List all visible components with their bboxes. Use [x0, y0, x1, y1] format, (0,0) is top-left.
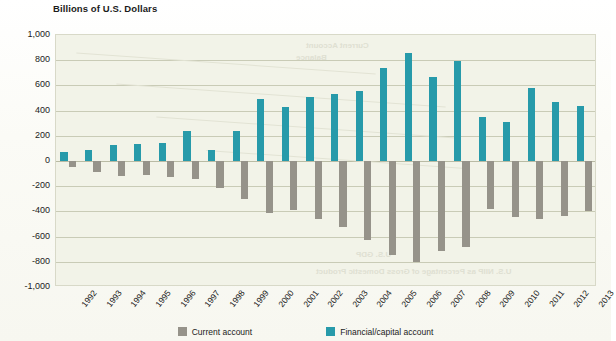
bar-group: [548, 35, 573, 285]
bar-group: [499, 35, 524, 285]
x-tick-label: 2008: [473, 288, 493, 309]
x-tick-label: 2010: [522, 288, 542, 309]
x-tick-label: 1995: [153, 288, 173, 309]
x-tick-label: 2011: [547, 288, 566, 309]
legend-label: Current account: [192, 327, 252, 337]
bar-financial-capital-account: [208, 150, 215, 161]
bar-financial-capital-account: [60, 152, 67, 161]
y-tick-label: -400: [2, 205, 50, 215]
x-tick-label: 2001: [301, 288, 321, 309]
bar-group: [204, 35, 229, 285]
bar-group: [179, 35, 204, 285]
bar-financial-capital-account: [503, 122, 510, 161]
bar-financial-capital-account: [429, 77, 436, 161]
bar-group: [302, 35, 327, 285]
y-axis: 1,0008006004002000-200-400-600-800-1,000: [0, 34, 50, 286]
bar-group: [425, 35, 450, 285]
x-tick-label: 2006: [424, 288, 444, 309]
bar-current-account: [438, 161, 445, 251]
y-tick-label: 200: [2, 130, 50, 140]
y-tick-label: 1,000: [2, 29, 50, 39]
bar-current-account: [512, 161, 519, 217]
bar-current-account: [241, 161, 248, 199]
bar-financial-capital-account: [454, 61, 461, 161]
x-tick-label: 2004: [375, 288, 395, 309]
y-tick-label: -200: [2, 180, 50, 190]
x-tick-label: 2000: [276, 288, 296, 309]
bar-group: [572, 35, 596, 285]
bar-financial-capital-account: [233, 131, 240, 161]
bar-current-account: [290, 161, 297, 210]
bar-financial-capital-account: [405, 53, 412, 161]
bar-financial-capital-account: [577, 106, 584, 161]
bar-current-account: [143, 161, 150, 175]
plot-area: Current AccountBalanceU.S. GDPU.S. NIIP …: [55, 34, 596, 286]
bar-financial-capital-account: [85, 150, 92, 161]
bar-financial-capital-account: [134, 144, 141, 161]
bar-current-account: [192, 161, 199, 179]
chart-axis-title: Billions of U.S. Dollars: [53, 3, 157, 14]
bar-group: [376, 35, 401, 285]
y-tick-label: 600: [2, 79, 50, 89]
bar-financial-capital-account: [306, 97, 313, 161]
bar-financial-capital-account: [479, 117, 486, 161]
bar-current-account: [462, 161, 469, 247]
bar-group: [253, 35, 278, 285]
x-tick-label: 2003: [350, 288, 370, 309]
legend-swatch-icon: [178, 327, 187, 336]
x-tick-label: 2005: [399, 288, 419, 309]
x-tick-label: 1993: [104, 288, 124, 309]
bar-current-account: [389, 161, 396, 255]
bar-current-account: [561, 161, 568, 216]
bar-group: [105, 35, 130, 285]
x-tick-label: 2013: [596, 288, 616, 309]
bar-group: [327, 35, 352, 285]
x-tick-label: 2007: [448, 288, 468, 309]
bar-financial-capital-account: [331, 94, 338, 161]
bar-current-account: [413, 161, 420, 262]
chart-legend: Current accountFinancial/capital account: [0, 322, 611, 341]
bar-financial-capital-account: [110, 145, 117, 161]
x-tick-label: 1999: [252, 288, 272, 309]
bar-group: [56, 35, 81, 285]
bar-group: [277, 35, 302, 285]
bar-current-account: [266, 161, 273, 213]
bar-group: [449, 35, 474, 285]
bar-current-account: [364, 161, 371, 240]
bar-group: [154, 35, 179, 285]
bar-group: [228, 35, 253, 285]
bar-group: [474, 35, 499, 285]
bar-current-account: [167, 161, 174, 177]
bar-current-account: [339, 161, 346, 227]
bar-group: [523, 35, 548, 285]
x-axis: 1992199319941995199619971998199920002001…: [55, 288, 596, 322]
bar-group: [130, 35, 155, 285]
legend-item-cur[interactable]: Current account: [178, 327, 252, 337]
bar-current-account: [585, 161, 592, 211]
bar-financial-capital-account: [257, 99, 264, 161]
y-tick-label: 800: [2, 54, 50, 64]
y-tick-label: -800: [2, 256, 50, 266]
x-tick-label: 1992: [80, 288, 100, 309]
bar-financial-capital-account: [552, 102, 559, 161]
bar-current-account: [118, 161, 125, 176]
x-tick-label: 1997: [203, 288, 223, 309]
y-tick-label: -1,000: [2, 281, 50, 291]
x-tick-label: 1994: [129, 288, 149, 309]
bar-current-account: [536, 161, 543, 219]
bar-financial-capital-account: [356, 91, 363, 161]
bar-current-account: [93, 161, 100, 172]
x-tick-label: 1998: [227, 288, 247, 309]
bar-financial-capital-account: [159, 143, 166, 161]
bar-current-account: [487, 161, 494, 209]
bar-financial-capital-account: [528, 88, 535, 161]
bar-financial-capital-account: [380, 68, 387, 161]
legend-item-fin[interactable]: Financial/capital account: [326, 327, 433, 337]
bar-current-account: [216, 161, 223, 188]
bar-group: [400, 35, 425, 285]
legend-label: Financial/capital account: [340, 327, 433, 337]
bar-financial-capital-account: [282, 107, 289, 161]
bar-current-account: [69, 161, 76, 167]
x-tick-label: 2009: [498, 288, 518, 309]
x-tick-label: 2012: [571, 288, 591, 309]
